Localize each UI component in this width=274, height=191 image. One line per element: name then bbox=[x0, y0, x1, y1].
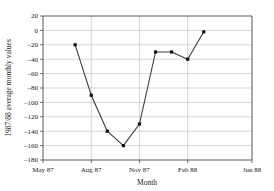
y-tick-label: –80 bbox=[27, 84, 39, 92]
x-axis-title: Month bbox=[137, 178, 157, 187]
data-point bbox=[90, 94, 93, 97]
y-tick-label: –20 bbox=[27, 41, 39, 49]
y-tick-label: –160 bbox=[23, 142, 39, 150]
y-tick-label: –140 bbox=[23, 128, 39, 136]
chart-background bbox=[0, 0, 274, 191]
data-point bbox=[170, 50, 173, 53]
x-tick-label: May 87 bbox=[32, 166, 54, 174]
line-chart: 200–20–40–60–80–100–120–140–160–180 May … bbox=[0, 0, 274, 191]
data-point bbox=[138, 122, 141, 125]
x-tick-label: Nov 87 bbox=[129, 166, 150, 174]
data-point bbox=[154, 50, 157, 53]
data-point bbox=[186, 58, 189, 61]
chart-figure: 200–20–40–60–80–100–120–140–160–180 May … bbox=[0, 0, 274, 191]
y-axis-title: 1987/88 average monthly values bbox=[4, 39, 13, 137]
x-tick-label: Feb 88 bbox=[178, 166, 198, 174]
data-point bbox=[74, 43, 77, 46]
y-tick-label: –100 bbox=[23, 99, 39, 107]
y-tick-label: 20 bbox=[31, 12, 39, 20]
x-tick-label: Aug 87 bbox=[81, 166, 102, 174]
data-point bbox=[202, 30, 205, 33]
y-tick-label: –180 bbox=[23, 156, 39, 164]
y-tick-label: –40 bbox=[27, 56, 39, 64]
data-point bbox=[106, 130, 109, 133]
x-tick-label: Jun 88 bbox=[243, 166, 262, 174]
y-tick-label: 0 bbox=[35, 27, 39, 35]
y-tick-label: –60 bbox=[27, 70, 39, 78]
data-point bbox=[122, 144, 125, 147]
y-tick-label: –120 bbox=[23, 113, 39, 121]
